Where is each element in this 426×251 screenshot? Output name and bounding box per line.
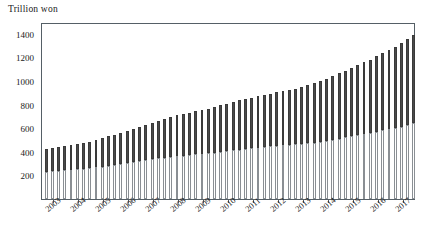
bar-segment-upper [325, 79, 328, 141]
bar-segment-lower [213, 153, 216, 199]
bar-segment-lower [113, 165, 116, 199]
table-row [288, 22, 291, 199]
table-row [82, 22, 85, 199]
table-row [356, 22, 359, 199]
bar-segment-lower [275, 146, 278, 199]
bar-segment-lower [344, 137, 347, 199]
table-row [369, 22, 372, 199]
bar-segment-upper [394, 47, 397, 128]
table-row [101, 22, 104, 199]
bar-segment-lower [257, 148, 260, 199]
bar-segment-lower [306, 143, 309, 199]
bar-segment-lower [406, 125, 409, 199]
table-row [394, 22, 397, 199]
bar-segment-lower [300, 144, 303, 199]
table-row [294, 22, 297, 199]
bar-segment-upper [306, 85, 309, 143]
plot-area [41, 23, 415, 200]
bar-segment-lower [331, 140, 334, 199]
bar-segment-lower [356, 135, 359, 199]
table-row [132, 22, 135, 199]
table-row [63, 22, 66, 199]
bar-segment-upper [45, 149, 48, 171]
table-row [269, 22, 272, 199]
table-row [313, 22, 316, 199]
chart-figure: Trillion won 200400600800100012001400 20… [0, 0, 426, 251]
bar-segment-upper [188, 113, 191, 155]
bar-segment-upper [263, 95, 266, 147]
table-row [194, 22, 197, 199]
bar-segment-upper [400, 43, 403, 126]
table-row [138, 22, 141, 199]
bar-segment-upper [194, 111, 197, 154]
bar-segment-lower [169, 157, 172, 199]
bar-segment-upper [169, 117, 172, 157]
bar-segment-lower [76, 169, 79, 199]
table-row [213, 22, 216, 199]
table-row [250, 22, 253, 199]
table-row [388, 22, 391, 199]
table-row [119, 22, 122, 199]
bar-segment-upper [388, 50, 391, 129]
table-row [95, 22, 98, 199]
table-row [169, 22, 172, 199]
bar-segment-lower [394, 128, 397, 199]
bar-segment-upper [219, 105, 222, 151]
y-axis-tick-label: 600 [2, 124, 34, 134]
bar-segment-upper [338, 73, 341, 138]
bar-segment-upper [406, 39, 409, 125]
bar-segment-upper [70, 145, 73, 170]
bar-segment-lower [338, 139, 341, 199]
bar-segment-upper [275, 92, 278, 146]
bar-segment-upper [138, 127, 141, 161]
table-row [144, 22, 147, 199]
bar-segment-upper [213, 107, 216, 153]
bar-segment-lower [57, 171, 60, 199]
bar-segment-lower [269, 146, 272, 199]
bar-segment-lower [207, 153, 210, 199]
bar-segment-upper [113, 135, 116, 165]
bar-segment-upper [132, 129, 135, 162]
bar-segment-lower [95, 167, 98, 199]
bar-segment-lower [412, 123, 415, 199]
bar-segment-upper [313, 83, 316, 142]
table-row [400, 22, 403, 199]
table-row [257, 22, 260, 199]
bar-segment-upper [57, 147, 60, 171]
bar-series-group [42, 24, 414, 199]
table-row [219, 22, 222, 199]
bar-segment-lower [244, 149, 247, 199]
bar-segment-upper [76, 144, 79, 169]
bar-segment-lower [107, 166, 110, 199]
bar-segment-lower [188, 155, 191, 199]
bar-segment-lower [232, 150, 235, 199]
table-row [76, 22, 79, 199]
bar-segment-lower [45, 172, 48, 199]
bar-segment-upper [282, 91, 285, 145]
table-row [45, 22, 48, 199]
bar-segment-upper [225, 104, 228, 151]
bar-segment-lower [250, 148, 253, 199]
table-row [201, 22, 204, 199]
bar-segment-upper [232, 102, 235, 150]
y-axis-tick-label: 1200 [2, 53, 34, 63]
bar-segment-lower [182, 156, 185, 199]
table-row [325, 22, 328, 199]
bar-segment-upper [363, 62, 366, 134]
bar-segment-lower [313, 143, 316, 199]
bar-segment-upper [300, 87, 303, 144]
bar-segment-lower [151, 159, 154, 199]
table-row [412, 22, 415, 199]
bar-segment-upper [350, 68, 353, 136]
bar-segment-lower [375, 132, 378, 199]
table-row [363, 22, 366, 199]
table-row [88, 22, 91, 199]
bar-segment-lower [288, 145, 291, 199]
y-axis-unit-label: Trillion won [8, 4, 58, 14]
table-row [70, 22, 73, 199]
table-row [350, 22, 353, 199]
bar-segment-lower [263, 147, 266, 199]
bar-segment-upper [51, 148, 54, 171]
bar-segment-upper [288, 90, 291, 145]
table-row [263, 22, 266, 199]
